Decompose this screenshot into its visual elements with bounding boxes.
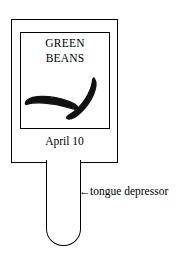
- label-date: April 10: [11, 134, 118, 149]
- tongue-depressor-stick: [46, 160, 81, 246]
- product-name-line-2: BEANS: [20, 51, 110, 66]
- left-arrow-icon: ←: [79, 184, 91, 198]
- product-name: GREEN BEANS: [20, 36, 110, 65]
- plant-marker-diagram: GREEN BEANS April 10 ←tongue depressor: [0, 0, 194, 257]
- product-name-line-1: GREEN: [20, 36, 110, 51]
- tongue-depressor-callout: ←tongue depressor: [79, 184, 168, 198]
- callout-label: tongue depressor: [90, 185, 168, 197]
- green-bean-pods-icon: [24, 74, 106, 128]
